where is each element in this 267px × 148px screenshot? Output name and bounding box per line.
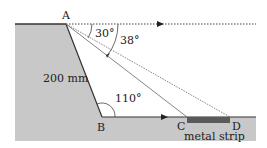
label-a: A <box>61 9 71 22</box>
label-metal-strip: metal strip <box>184 130 245 143</box>
angle-arc-30 <box>88 24 92 38</box>
metal-strip <box>187 117 230 123</box>
label-b: B <box>97 121 105 134</box>
label-angle-110: 110° <box>115 92 142 105</box>
label-angle-38: 38° <box>120 34 140 47</box>
label-length: 200 mm <box>43 72 89 85</box>
diagram: A B C D 200 mm 30° 38° 110° metal strip <box>0 0 267 148</box>
label-angle-30: 30° <box>95 27 115 40</box>
arrow-top-icon <box>157 21 164 27</box>
